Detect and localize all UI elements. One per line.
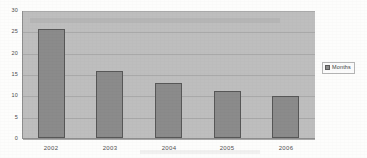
y-tick-label: 5	[15, 115, 18, 121]
y-axis: 051015202530	[0, 0, 22, 139]
y-tick-label: 20	[11, 51, 18, 57]
y-tick-label: 15	[11, 72, 18, 78]
legend-swatch-months	[325, 65, 330, 70]
bar	[214, 91, 241, 138]
x-tick-label: 2004	[162, 145, 177, 151]
bar	[155, 83, 182, 138]
bar	[272, 96, 299, 138]
y-tick-label: 0	[15, 136, 18, 142]
bar	[38, 29, 65, 138]
x-tick-label: 2006	[279, 145, 294, 151]
legend-label-months: Months	[332, 65, 351, 71]
bar-chart: 051015202530 20022003200420052006 Months	[0, 0, 367, 158]
x-tick-label: 2003	[103, 145, 118, 151]
x-tick-label: 2005	[220, 145, 235, 151]
x-tick-label: 2002	[44, 145, 59, 151]
bars-layer	[22, 11, 315, 139]
bar	[96, 71, 123, 138]
y-tick-label: 10	[11, 94, 18, 100]
y-tick-label: 30	[11, 8, 18, 14]
x-axis: 20022003200420052006	[22, 139, 315, 158]
chart-legend: Months	[322, 62, 355, 74]
y-tick-label: 25	[11, 30, 18, 36]
